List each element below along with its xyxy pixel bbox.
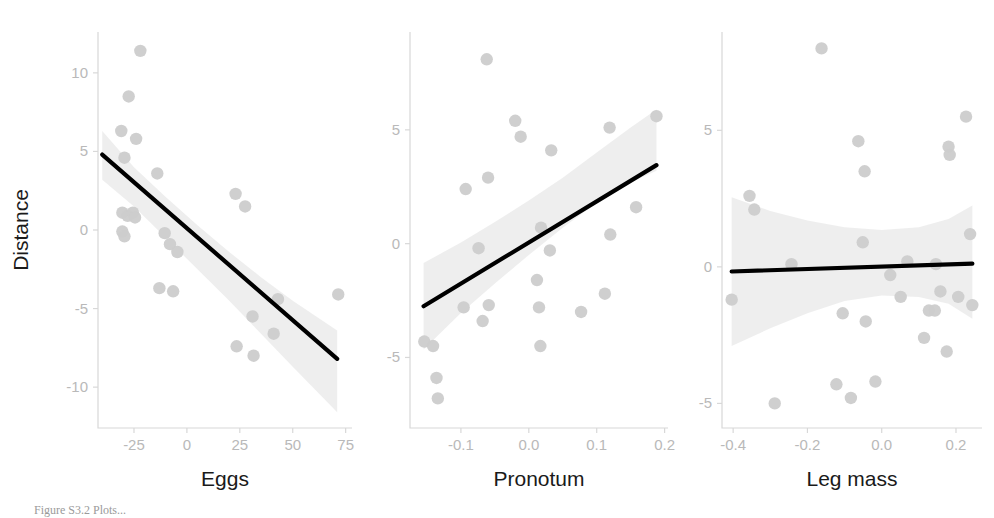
data-point: [130, 133, 142, 145]
data-point: [239, 200, 251, 212]
data-point: [603, 121, 615, 133]
data-point: [943, 149, 955, 161]
data-point: [918, 332, 930, 344]
y-tick-label: 0: [80, 221, 88, 238]
data-point: [960, 110, 972, 122]
x-tick-label: 25: [231, 436, 248, 453]
data-point: [459, 183, 471, 195]
x-tick-label: -0.4: [720, 436, 746, 453]
data-point: [748, 203, 760, 215]
y-tick-label: 0: [392, 235, 400, 252]
data-point: [575, 306, 587, 318]
x-tick-label: -25: [123, 436, 145, 453]
data-point: [650, 110, 662, 122]
y-tick-label: 0: [704, 258, 712, 275]
x-axis-title: Leg mass: [806, 467, 897, 490]
data-point: [514, 130, 526, 142]
data-point: [534, 340, 546, 352]
panel-1: -250255075-10-50510Eggs: [66, 32, 354, 490]
data-point: [167, 285, 179, 297]
data-point: [482, 171, 494, 183]
data-point: [845, 392, 857, 404]
data-point: [332, 288, 344, 300]
data-point: [869, 375, 881, 387]
x-axis-title: Eggs: [201, 467, 249, 490]
data-point: [860, 315, 872, 327]
data-point: [246, 310, 258, 322]
data-point: [941, 345, 953, 357]
data-point: [966, 299, 978, 311]
data-point: [830, 378, 842, 390]
x-tick-label: 0.2: [654, 436, 675, 453]
data-point: [118, 230, 130, 242]
data-point: [769, 397, 781, 409]
data-point: [604, 228, 616, 240]
x-tick-label: -0.2: [794, 436, 820, 453]
data-point: [171, 246, 183, 258]
data-point: [509, 115, 521, 127]
data-point: [837, 307, 849, 319]
y-tick-label: 10: [71, 64, 88, 81]
data-point: [430, 372, 442, 384]
data-point: [852, 135, 864, 147]
x-tick-label: 0.1: [586, 436, 607, 453]
data-point: [894, 291, 906, 303]
y-axis-title: Distance: [9, 189, 32, 271]
confidence-band: [102, 131, 337, 412]
data-point: [158, 227, 170, 239]
regression-line: [102, 155, 337, 359]
data-point: [533, 301, 545, 313]
data-point: [884, 269, 896, 281]
data-point: [122, 90, 134, 102]
data-point: [743, 190, 755, 202]
y-tick-label: -5: [75, 300, 88, 317]
figure-caption: Figure S3.2 Plots...: [34, 503, 994, 518]
y-tick-label: 5: [80, 142, 88, 159]
x-tick-label: 0.2: [946, 436, 967, 453]
data-point: [427, 340, 439, 352]
data-point: [115, 125, 127, 137]
data-point: [129, 211, 141, 223]
data-point: [134, 45, 146, 57]
y-tick-label: 5: [704, 121, 712, 138]
panel-3: -0.4-0.20.00.2-505Leg mass: [699, 32, 982, 490]
data-point: [472, 242, 484, 254]
data-point: [599, 288, 611, 300]
data-point: [151, 167, 163, 179]
data-point: [247, 350, 259, 362]
data-point: [153, 282, 165, 294]
data-point: [630, 201, 642, 213]
y-tick-label: -5: [387, 348, 400, 365]
data-point: [483, 299, 495, 311]
data-point: [476, 315, 488, 327]
panel-2: -0.10.00.10.2-505Pronotum: [387, 32, 675, 490]
x-tick-label: 0: [183, 436, 191, 453]
data-point: [934, 285, 946, 297]
data-point: [531, 274, 543, 286]
data-point: [481, 53, 493, 65]
x-tick-label: -0.1: [448, 436, 474, 453]
x-axis-title: Pronotum: [493, 467, 584, 490]
data-point: [229, 188, 241, 200]
data-point: [267, 328, 279, 340]
data-point: [457, 301, 469, 313]
y-tick-label: 5: [392, 121, 400, 138]
data-point: [725, 293, 737, 305]
data-point: [952, 291, 964, 303]
data-point: [432, 392, 444, 404]
data-point: [964, 228, 976, 240]
x-tick-label: 75: [337, 436, 354, 453]
x-tick-label: 0.0: [871, 436, 892, 453]
data-point: [858, 165, 870, 177]
data-point: [929, 304, 941, 316]
data-point: [815, 42, 827, 54]
y-tick-label: -10: [66, 378, 88, 395]
x-tick-label: 50: [284, 436, 301, 453]
data-point: [544, 244, 556, 256]
scatter-points: [418, 53, 663, 405]
y-tick-label: -5: [699, 394, 712, 411]
x-tick-label: 0.0: [518, 436, 539, 453]
data-point: [230, 340, 242, 352]
